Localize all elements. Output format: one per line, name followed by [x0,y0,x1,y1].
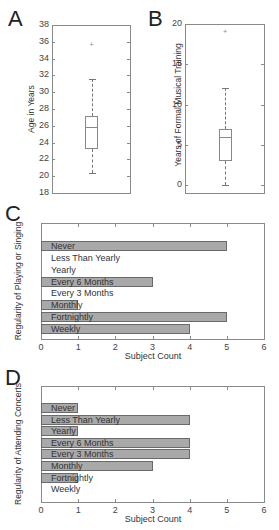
ytick-label: 20 [162,19,182,28]
panel-d-ylabel: Regularity of Attending Concerts [13,385,23,505]
lower-whisker [92,149,93,173]
ytick-mark-left [52,25,55,26]
xtick-mark-top [227,387,228,390]
ytick-label: 0 [162,180,182,189]
category-label: Every 6 Months [51,278,114,287]
xtick-label: 5 [221,506,233,515]
ytick-label: 22 [29,154,49,163]
ytick-mark-left [185,105,188,106]
panel-c-xlabel: Subject Count [103,351,203,361]
xtick-mark-top [153,387,154,390]
ytick-mark-right [261,145,264,146]
xtick-mark-bottom [41,499,42,502]
xtick-mark-top [115,224,116,227]
ytick-mark-left [185,24,188,25]
category-label: Never [51,242,75,251]
xtick-mark-top [153,224,154,227]
ytick-mark-left [52,92,55,93]
xtick-mark-top [41,224,42,227]
ytick-mark-left [52,109,55,110]
xtick-label: 0 [35,343,47,352]
xtick-mark-top [227,224,228,227]
ytick-mark-left [52,193,55,194]
upper-whisker-cap [222,88,229,89]
panel-a-ylabel: Age in Years [26,69,36,149]
xtick-mark-top [115,387,116,390]
category-label: Fortnightly [51,474,93,483]
xtick-mark-bottom [153,499,154,502]
ytick-mark-left [185,64,188,65]
ytick-mark-left [52,143,55,144]
xtick-mark-top [190,387,191,390]
xtick-mark-top [78,387,79,390]
outlier-marker: + [90,41,94,48]
panel-letter-b: B [148,8,163,30]
xtick-mark-bottom [264,336,265,339]
ytick-mark-left [52,176,55,177]
lower-whisker-cap [89,173,96,174]
category-label: Fortnightly [51,313,93,322]
ytick-mark-right [127,75,130,76]
ytick-label: 18 [29,188,49,197]
category-label: Less Than Yearly [51,254,120,263]
ytick-mark-right [127,176,130,177]
xtick-mark-bottom [227,336,228,339]
category-label: Less Than Yearly [51,416,120,425]
ytick-mark-right [261,64,264,65]
median-line [219,137,232,138]
panel-letter-a: A [8,8,23,30]
category-label: Yearly [51,427,76,436]
category-label: Every 3 Months [51,289,114,298]
ytick-mark-right [261,185,264,186]
ytick-mark-right [261,24,264,25]
xtick-mark-top [264,387,265,390]
xtick-mark-top [41,387,42,390]
ytick-label: 20 [29,171,49,180]
ytick-mark-right [127,109,130,110]
xtick-mark-top [264,224,265,227]
upper-whisker [92,79,93,116]
xtick-mark-bottom [227,499,228,502]
xtick-label: 6 [258,506,270,515]
xtick-label: 0 [35,506,47,515]
category-label: Weekly [51,485,80,494]
iqr-box [85,116,98,150]
ytick-mark-left [185,185,188,186]
panel-d-xlabel: Subject Count [103,514,203,524]
category-label: Yearly [51,266,76,275]
ytick-mark-right [127,143,130,144]
ytick-mark-left [52,42,55,43]
ytick-mark-right [127,193,130,194]
xtick-label: 6 [258,343,270,352]
ytick-mark-right [127,59,130,60]
ytick-mark-right [127,25,130,26]
category-label: Never [51,404,75,413]
iqr-box [219,129,232,161]
ytick-label: 34 [29,54,49,63]
xtick-mark-bottom [115,499,116,502]
category-label: Monthly [51,301,83,310]
xtick-label: 1 [72,506,84,515]
ytick-mark-left [52,59,55,60]
category-label: Every 3 Months [51,450,114,459]
ytick-mark-left [52,126,55,127]
outlier-marker: + [223,28,227,35]
xtick-mark-bottom [190,499,191,502]
xtick-mark-bottom [115,336,116,339]
ytick-mark-right [127,159,130,160]
ytick-mark-right [127,92,130,93]
lower-whisker [225,161,226,185]
xtick-label: 5 [221,343,233,352]
xtick-mark-bottom [78,499,79,502]
ytick-mark-right [127,126,130,127]
lower-whisker-cap [222,185,229,186]
ytick-label: 38 [29,20,49,29]
xtick-mark-bottom [153,336,154,339]
ytick-mark-left [52,75,55,76]
ytick-mark-left [52,159,55,160]
ytick-mark-left [185,145,188,146]
category-label: Every 6 Months [51,439,114,448]
panel-c-ylabel: Regularity of Playing or Singing [13,221,23,341]
median-line [85,127,98,128]
xtick-mark-bottom [41,336,42,339]
